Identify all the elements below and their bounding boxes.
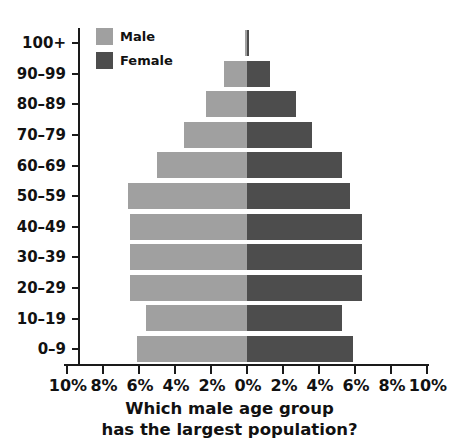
- pyramid-row: 20–29: [0, 273, 459, 304]
- y-axis-tick: [72, 195, 80, 197]
- y-axis-label: 90–99: [0, 65, 66, 83]
- y-axis-tick: [72, 318, 80, 320]
- y-axis-label: 40–49: [0, 218, 66, 236]
- bar-male: [206, 91, 247, 117]
- x-axis-tick: [246, 366, 248, 374]
- x-axis-label: 10%: [400, 376, 456, 395]
- chart-legend: Male Female: [96, 24, 173, 72]
- population-pyramid-chart: 100+90–9980–8970–7960–6950–5940–4930–392…: [0, 0, 459, 443]
- bar-male: [130, 275, 247, 301]
- bar-female: [247, 61, 270, 87]
- legend-label-female: Female: [120, 53, 173, 68]
- bar-female: [247, 152, 342, 178]
- plot-area: 100+90–9980–8970–7960–6950–5940–4930–392…: [0, 0, 459, 365]
- y-axis-tick: [72, 348, 80, 350]
- pyramid-row: 30–39: [0, 242, 459, 273]
- pyramid-row: 90–99: [0, 59, 459, 90]
- y-axis-tick: [72, 165, 80, 167]
- y-axis-label: 0–9: [0, 340, 66, 358]
- y-axis-label: 70–79: [0, 126, 66, 144]
- y-axis-label: 30–39: [0, 248, 66, 266]
- bar-male: [184, 122, 247, 148]
- y-axis-label: 20–29: [0, 279, 66, 297]
- y-axis-tick: [72, 256, 80, 258]
- bar-female: [247, 30, 249, 56]
- question-caption: Which male age group has the largest pop…: [0, 398, 459, 440]
- y-axis-tick: [72, 103, 80, 105]
- bar-male: [128, 183, 247, 209]
- y-axis-tick: [72, 287, 80, 289]
- bar-female: [247, 214, 362, 240]
- question-line-2: has the largest population?: [0, 419, 459, 440]
- pyramid-row: 0–9: [0, 334, 459, 365]
- pyramid-row: 70–79: [0, 120, 459, 151]
- y-axis-label: 80–89: [0, 95, 66, 113]
- y-axis-tick: [72, 226, 80, 228]
- x-axis-tick: [66, 366, 68, 374]
- x-axis-tick: [102, 366, 104, 374]
- pyramid-row: 10–19: [0, 303, 459, 334]
- bar-female: [247, 275, 362, 301]
- x-axis-tick: [210, 366, 212, 374]
- legend-item-female: Female: [96, 48, 173, 72]
- question-line-1: Which male age group: [0, 398, 459, 419]
- bar-male: [130, 214, 247, 240]
- bar-male: [146, 305, 247, 331]
- y-axis-label: 50–59: [0, 187, 66, 205]
- pyramid-row: 80–89: [0, 89, 459, 120]
- x-axis-tick: [318, 366, 320, 374]
- y-axis-tick: [72, 42, 80, 44]
- y-axis-label: 60–69: [0, 157, 66, 175]
- x-axis-tick: [390, 366, 392, 374]
- x-axis-tick: [174, 366, 176, 374]
- bar-female: [247, 122, 312, 148]
- x-axis-tick: [282, 366, 284, 374]
- legend-swatch-male-icon: [96, 28, 113, 45]
- y-axis-tick: [72, 134, 80, 136]
- legend-item-male: Male: [96, 24, 173, 48]
- pyramid-row: 50–59: [0, 181, 459, 212]
- legend-label-male: Male: [120, 29, 155, 44]
- pyramid-row: 40–49: [0, 212, 459, 243]
- bar-female: [247, 244, 362, 270]
- y-axis-tick: [72, 73, 80, 75]
- legend-swatch-female-icon: [96, 52, 113, 69]
- x-axis-tick: [138, 366, 140, 374]
- x-axis-tick: [354, 366, 356, 374]
- pyramid-row: 60–69: [0, 150, 459, 181]
- bar-female: [247, 305, 342, 331]
- y-axis-label: 10–19: [0, 310, 66, 328]
- bar-female: [247, 183, 350, 209]
- bar-female: [247, 91, 296, 117]
- y-axis-label: 100+: [0, 34, 66, 52]
- pyramid-row: 100+: [0, 28, 459, 59]
- bar-male: [137, 336, 247, 362]
- bar-female: [247, 336, 353, 362]
- x-axis-tick: [426, 366, 428, 374]
- bar-male: [157, 152, 247, 178]
- bar-male: [224, 61, 247, 87]
- bar-male: [130, 244, 247, 270]
